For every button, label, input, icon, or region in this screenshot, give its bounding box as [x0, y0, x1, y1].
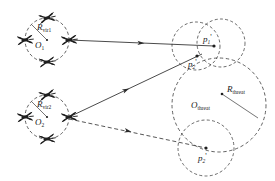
center-dot-o2 [46, 116, 48, 118]
center-dot-o1 [46, 39, 48, 41]
point-p1-prime [212, 44, 215, 47]
center-dot-o-threat [221, 93, 224, 96]
point-p2-prime-lower [204, 146, 207, 149]
formation-threat-diagram: Rvir1 O1 Rvir2 O2 Rthreat Othreat p1' p2… [0, 0, 275, 181]
diagram-canvas: Rvir1 O1 Rvir2 O2 Rthreat Othreat p1' p2… [0, 0, 275, 181]
